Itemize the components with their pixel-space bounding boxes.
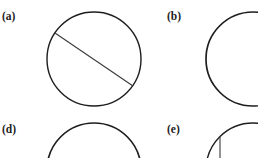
- panel-b: (b): [167, 10, 258, 106]
- circle-diagram-figure: (a) (b) (d) (e): [0, 0, 258, 158]
- panel-a-diameter-chord: [55, 33, 133, 86]
- panel-a-label: (a): [2, 10, 16, 23]
- panel-d-label: (d): [2, 123, 16, 136]
- panel-e-circle: [206, 123, 258, 158]
- panel-d: (d): [2, 123, 141, 158]
- panel-b-label: (b): [167, 10, 181, 23]
- panel-e: (e): [167, 123, 258, 158]
- panel-a: (a): [2, 10, 141, 106]
- panel-d-circle: [47, 123, 141, 158]
- panel-b-circle: [206, 12, 258, 106]
- panel-e-label: (e): [167, 123, 180, 136]
